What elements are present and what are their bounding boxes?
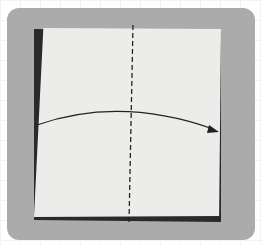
fold-diagram [0, 0, 262, 245]
fold-arrow-curve [37, 111, 213, 129]
valley-fold-dashed-line [129, 25, 133, 223]
fold-arrow-head-icon [207, 125, 219, 133]
